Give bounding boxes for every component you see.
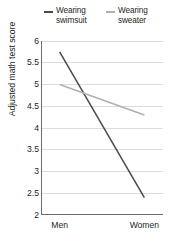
plot-svg [41, 41, 163, 215]
y-tick-label: 5.5 [8, 58, 39, 67]
y-tick-label: 4 [8, 124, 39, 133]
legend-swatch-swimsuit [44, 11, 53, 13]
x-axis-ticks: MenWomen [41, 220, 163, 234]
y-tick-label: 4.5 [8, 102, 39, 111]
chart-figure: Wearing swimsuit Wearing sweater Adjuste… [0, 0, 170, 246]
x-tick-label: Men [33, 220, 87, 230]
data-series-lines [60, 52, 145, 198]
legend-label-swimsuit: Wearing swimsuit [56, 6, 87, 26]
gridlines [41, 41, 163, 215]
legend-item-sweater: Wearing sweater [106, 6, 168, 26]
y-tick-label: 6 [8, 37, 39, 46]
legend-item-swimsuit: Wearing swimsuit [44, 6, 106, 26]
plot-area [41, 41, 163, 215]
y-tick-label: 2.5 [8, 189, 39, 198]
legend-swatch-sweater [106, 11, 115, 13]
y-axis-ticks: 65.554.543.532.52 [8, 41, 39, 215]
x-tick-label: Women [117, 220, 170, 230]
series-line-0 [60, 52, 145, 198]
legend-label-sweater: Wearing sweater [118, 6, 148, 26]
chart-legend: Wearing swimsuit Wearing sweater [44, 6, 168, 32]
y-tick-label: 2 [8, 211, 39, 220]
y-tick-label: 5 [8, 80, 39, 89]
series-line-1 [60, 85, 145, 115]
y-tick-label: 3.5 [8, 145, 39, 154]
y-tick-label: 3 [8, 167, 39, 176]
